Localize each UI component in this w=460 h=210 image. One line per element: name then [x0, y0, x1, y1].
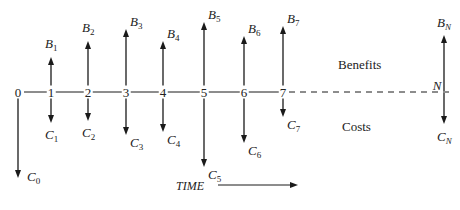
benefit-label-6: B6	[248, 22, 260, 38]
period-tick-5: 5	[200, 86, 209, 99]
cost-label-6: C6	[248, 144, 261, 160]
benefit-arrow-head	[241, 36, 247, 44]
benefit-arrow-head	[280, 26, 286, 34]
benefit-arrow-head	[201, 22, 207, 30]
period-tick-2: 2	[84, 86, 93, 99]
cost-label-N: CN	[437, 130, 452, 146]
benefit-label-4: B4	[167, 27, 179, 43]
cost-label-1: C1	[45, 128, 58, 144]
cost-arrow-head	[280, 109, 286, 117]
benefit-arrow-head	[123, 29, 129, 37]
benefit-label-3: B3	[130, 15, 142, 31]
benefit-arrow-head	[85, 41, 91, 49]
cost-label-2: C2	[82, 126, 95, 142]
period-tick-3: 3	[122, 86, 131, 99]
costs-label: Costs	[342, 120, 371, 133]
time-arrow-head	[290, 182, 298, 188]
cost-arrow-head	[15, 170, 21, 178]
cost-arrow-head	[123, 127, 129, 135]
period-tick-4: 4	[159, 86, 168, 99]
cost-arrow-head	[85, 113, 91, 121]
benefit-label-7: B7	[287, 12, 299, 28]
cost-label-5: C5	[208, 168, 221, 184]
cost-label-4: C4	[167, 133, 180, 149]
diagram-canvas	[0, 0, 460, 210]
period-tick-1: 1	[47, 86, 56, 99]
period-tick-0: 0	[14, 86, 23, 99]
cost-arrow-head	[48, 115, 54, 123]
time-label: TIME	[176, 180, 204, 192]
cost-label-3: C3	[130, 136, 143, 152]
benefit-label-N: BN	[437, 16, 451, 32]
benefit-label-2: B2	[82, 21, 94, 37]
benefit-arrow-head	[160, 41, 166, 49]
cost-arrow-head	[241, 135, 247, 143]
cost-arrow-head	[441, 116, 447, 124]
cost-label-0: C0	[27, 170, 40, 186]
period-tick-7: 7	[279, 86, 288, 99]
benefits-label: Benefits	[338, 58, 381, 71]
cost-label-7: C7	[287, 118, 300, 134]
period-tick-N: N	[432, 79, 443, 92]
benefit-label-5: B5	[208, 8, 220, 24]
cost-arrow-head	[160, 124, 166, 132]
cost-arrow-head	[201, 159, 207, 167]
benefit-arrow-head	[48, 57, 54, 65]
cash-flow-diagram: Benefits Costs TIME C00B1C11B2C22B3C33B4…	[0, 0, 460, 210]
period-tick-6: 6	[240, 86, 249, 99]
benefit-label-1: B1	[45, 37, 57, 53]
benefit-arrow-head	[441, 35, 447, 43]
